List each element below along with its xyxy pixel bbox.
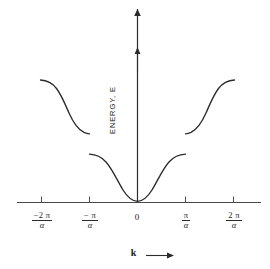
band-structure-figure: ENERGY, E k −2 π α − π α 0 π α 2 π α [0,0,270,269]
band-curve-second-right [186,80,235,134]
x-axis-title-group: k [108,247,198,258]
tick-label-minus-pi-over-a: − π α [70,211,110,230]
fraction-denominator: α [82,221,98,230]
fraction-denominator: α [182,221,191,230]
tick-label-2pi-over-a: 2 π α [214,211,254,230]
band-curve-second-left [41,80,90,134]
x-axis-title: k [131,247,137,258]
up-arrow-icon [134,9,141,16]
tick-label-zero: 0 [127,212,147,222]
fraction-denominator: α [226,221,242,230]
fraction-2pi-over-a: 2 π α [226,211,242,230]
y-axis-title: ENERGY, E [108,70,117,150]
tick-label-minus-2pi-over-a: −2 π α [22,211,62,230]
fraction-denominator: α [32,221,53,230]
fraction-minus-2pi-over-a: −2 π α [32,211,53,230]
fraction-pi-over-a: π α [182,211,191,230]
fraction-minus-pi-over-a: − π α [82,211,98,230]
x-axis-arrow-spacer [143,249,175,257]
energy-axis-arrow-icon [135,47,141,72]
tick-label-pi-over-a: π α [166,211,206,230]
